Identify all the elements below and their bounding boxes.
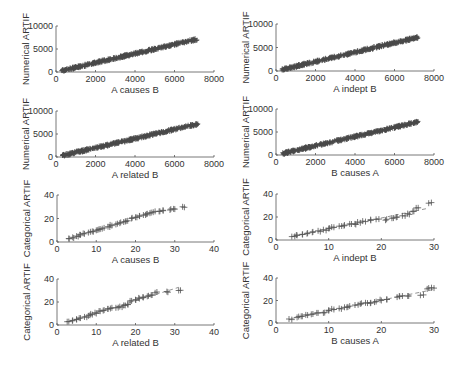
scatter-panel-7: 01020304002040A related BCategorical ART… xyxy=(21,263,219,348)
y-axis-label: Categorical ARTIF xyxy=(240,178,251,256)
y-tick-label: 0 xyxy=(268,66,273,76)
x-tick-label: 20 xyxy=(376,325,386,335)
x-axis-label: A causes B xyxy=(111,84,159,95)
x-tick-label: 0 xyxy=(273,73,278,83)
scatter-panel-5: 01020304002040A causes BCategorical ARTI… xyxy=(21,180,219,265)
x-axis-label: A indept B xyxy=(333,83,376,94)
x-tick-label: 4000 xyxy=(345,157,365,167)
plus-markers xyxy=(280,119,420,157)
plus-markers xyxy=(286,285,437,323)
x-axis-label: B causes A xyxy=(331,335,379,346)
y-tick-label: 20 xyxy=(44,297,54,307)
x-axis-label: A related B xyxy=(112,169,158,180)
y-tick-label: 10000 xyxy=(248,19,273,29)
y-axis-label: Categorical ARTIF xyxy=(240,262,251,340)
x-tick-label: 6000 xyxy=(384,73,404,83)
x-axis-label: A related B xyxy=(112,337,158,348)
x-tick-label: 20 xyxy=(130,327,140,337)
y-tick-label: 0 xyxy=(48,152,53,162)
scatter-panel-4: 020004000600080000500010000B causes ANum… xyxy=(240,96,444,178)
y-tick-label: 5000 xyxy=(253,127,273,137)
y-tick-label: 5000 xyxy=(33,44,53,54)
x-tick-label: 8000 xyxy=(424,157,444,167)
y-tick-label: 40 xyxy=(44,274,54,284)
caption-cut-off xyxy=(0,358,459,366)
plus-markers xyxy=(60,121,200,158)
y-tick-label: 10000 xyxy=(28,106,53,116)
y-tick-label: 20 xyxy=(263,212,273,222)
x-tick-label: 4000 xyxy=(125,74,145,84)
x-tick-label: 2000 xyxy=(305,73,325,83)
scatter-panel-3: 020004000600080000500010000A related BNu… xyxy=(20,98,224,180)
y-tick-label: 20 xyxy=(44,214,54,224)
plus-markers xyxy=(66,204,188,242)
scatter-panel-8: 010203002040B causes ACategorical ARTIF xyxy=(240,262,439,346)
x-tick-label: 0 xyxy=(53,159,58,169)
y-tick-label: 0 xyxy=(49,237,54,247)
x-tick-label: 30 xyxy=(429,325,439,335)
y-tick-label: 0 xyxy=(48,67,53,77)
y-axis-label: Numerical ARTIF xyxy=(20,13,31,85)
y-tick-label: 40 xyxy=(263,189,273,199)
scatter-panel-2: 020004000600080000500010000A indept BNum… xyxy=(240,11,444,94)
x-tick-label: 8000 xyxy=(204,159,224,169)
x-tick-label: 4000 xyxy=(345,73,365,83)
x-tick-label: 0 xyxy=(54,244,59,254)
x-axis-label: B causes A xyxy=(331,167,379,178)
x-tick-label: 30 xyxy=(429,242,439,252)
x-tick-label: 0 xyxy=(53,74,58,84)
x-tick-label: 10 xyxy=(91,327,101,337)
y-tick-label: 40 xyxy=(44,190,54,200)
x-tick-label: 20 xyxy=(130,244,140,254)
y-axis-label: Categorical ARTIF xyxy=(21,180,32,258)
y-axis-label: Numerical ARTIF xyxy=(20,98,31,170)
plus-markers xyxy=(280,34,421,73)
plus-markers xyxy=(60,36,200,74)
y-tick-label: 0 xyxy=(268,235,273,245)
x-tick-label: 8000 xyxy=(204,74,224,84)
y-tick-label: 0 xyxy=(49,320,54,330)
x-tick-label: 20 xyxy=(376,242,386,252)
x-tick-label: 0 xyxy=(54,327,59,337)
x-tick-label: 2000 xyxy=(85,159,105,169)
y-tick-label: 20 xyxy=(263,296,273,306)
y-axis-label: Numerical ARTIF xyxy=(240,11,251,83)
plus-markers xyxy=(289,200,435,240)
y-tick-label: 5000 xyxy=(33,129,53,139)
x-tick-label: 2000 xyxy=(305,157,325,167)
x-tick-label: 0 xyxy=(273,325,278,335)
x-tick-label: 0 xyxy=(273,157,278,167)
x-tick-label: 6000 xyxy=(164,74,184,84)
x-tick-label: 6000 xyxy=(384,157,404,167)
y-axis-label: Categorical ARTIF xyxy=(21,263,32,341)
scatter-panel-6: 010203002040A indept BCategorical ARTIF xyxy=(240,178,439,263)
x-tick-label: 8000 xyxy=(424,73,444,83)
y-tick-label: 0 xyxy=(268,150,273,160)
y-axis-label: Numerical ARTIF xyxy=(240,96,251,168)
x-axis-label: A indept B xyxy=(333,252,376,263)
scatter-panel-1: 020004000600080000500010000A causes BNum… xyxy=(20,13,224,95)
figure-grid: 020004000600080000500010000A causes BNum… xyxy=(0,0,459,366)
x-tick-label: 30 xyxy=(170,244,180,254)
x-tick-label: 0 xyxy=(273,242,278,252)
y-tick-label: 5000 xyxy=(253,43,273,53)
x-tick-label: 10 xyxy=(324,242,334,252)
plus-markers xyxy=(64,287,183,324)
x-tick-label: 2000 xyxy=(85,74,105,84)
y-tick-label: 0 xyxy=(268,318,273,328)
x-tick-label: 10 xyxy=(324,325,334,335)
x-tick-label: 6000 xyxy=(164,159,184,169)
y-tick-label: 40 xyxy=(263,273,273,283)
y-tick-label: 10000 xyxy=(28,21,53,31)
y-tick-label: 10000 xyxy=(248,104,273,114)
x-axis-label: A causes B xyxy=(112,254,160,265)
x-tick-label: 30 xyxy=(170,327,180,337)
x-tick-label: 40 xyxy=(209,244,219,254)
x-tick-label: 40 xyxy=(209,327,219,337)
x-tick-label: 10 xyxy=(91,244,101,254)
x-tick-label: 4000 xyxy=(125,159,145,169)
